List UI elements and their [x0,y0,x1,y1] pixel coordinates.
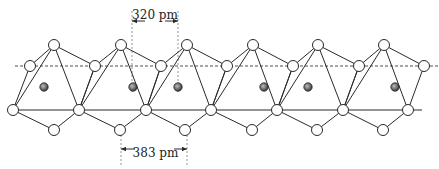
octahedra-chain-diagram: 320 pm 383 pm [0,0,439,169]
octahedron-6-edge [408,66,424,110]
octahedron-2-edge [79,45,121,110]
octahedron-3-edge [187,45,227,66]
ligand-node-2 [25,61,36,72]
reference-lines [7,66,439,110]
octahedron-3-edge [146,110,185,130]
ligand-node-24 [419,61,430,72]
octahedron-5-edge [318,45,343,110]
octahedron-3-edge [187,45,211,110]
octahedron-2-edge [121,45,161,66]
ligand-node-11 [182,40,193,51]
ligand-node-18 [247,125,258,136]
arrow-right-bottom-head [182,147,187,151]
ligand-node-13 [206,105,217,116]
metal-atom-4 [260,83,268,91]
ligand-node-21 [338,105,349,116]
octahedron-5-edge [277,110,317,130]
ligand-node-4 [8,105,19,116]
distance-label-383pm: 383 pm [133,146,179,160]
octahedron-4-edge [211,110,252,130]
ligand-node-1 [49,40,60,51]
ligand-node-9 [141,105,152,116]
metal-atom-6 [391,83,399,91]
octahedron-5-edge [277,45,318,110]
octahedron-4-edge [211,45,253,110]
distance-label-320pm: 320 pm [132,8,178,22]
ligand-node-7 [116,40,127,51]
octahedron-2-edge [79,110,120,130]
octahedron-1-edge [54,45,79,110]
octahedron-edges [13,45,424,130]
ligand-node-15 [248,40,259,51]
octahedron-4-edge [253,45,293,66]
ligand-node-6 [49,125,60,136]
ligand-node-8 [156,61,167,72]
octahedron-4-edge [253,45,277,110]
octahedron-2-edge [79,66,95,110]
ligand-node-14 [180,125,191,136]
metal-atom-1 [40,83,48,91]
arrow-left-bottom-head [121,147,126,151]
ligand-node-23 [379,40,390,51]
ligand-node-19 [313,40,324,51]
metal-atom-5 [304,83,312,91]
octahedron-6-edge [384,45,424,66]
octahedron-3-edge [146,45,187,110]
ligand-node-20 [354,61,365,72]
octahedron-1-edge [54,45,95,66]
ligand-node-16 [288,61,299,72]
ligand-node-5 [74,105,85,116]
metal-atom-3 [174,83,182,91]
ligand-node-3 [90,61,101,72]
ligand-node-10 [115,125,126,136]
octahedron-2-edge [121,45,146,110]
octahedron-4-edge [211,66,227,110]
ligand-node-25 [403,105,414,116]
metal-atom-2 [129,83,137,91]
octahedron-5-edge [318,45,359,66]
ligand-node-22 [312,125,323,136]
octahedron-6-edge [384,45,408,110]
octahedron-1-edge [13,110,54,130]
ligand-node-26 [378,125,389,136]
ligand-node-17 [272,105,283,116]
octahedron-6-edge [343,45,384,110]
ligand-node-12 [222,61,233,72]
octahedron-1-edge [13,45,54,110]
octahedron-6-edge [343,110,383,130]
octahedron-3-edge [146,66,161,110]
